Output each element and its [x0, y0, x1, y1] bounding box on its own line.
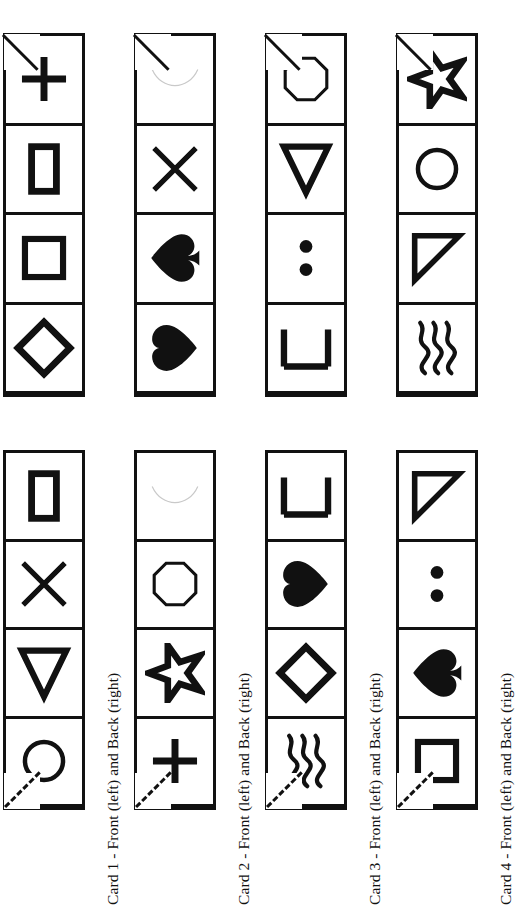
- card-cell: [6, 453, 82, 542]
- cross-x-icon: [15, 555, 73, 613]
- card-caption: Card 1 - Front (left) and Back (right): [104, 565, 122, 905]
- square-icon: [16, 230, 72, 286]
- card-strip-back: [265, 33, 347, 397]
- card-cell: [137, 305, 213, 395]
- octagon-icon: [149, 558, 201, 610]
- dashed-cut-corner: [397, 773, 433, 809]
- card-2: Card 2 - Front (left) and Back (right): [131, 0, 262, 810]
- card-strip-front: [134, 450, 216, 810]
- card-cell: [268, 305, 344, 395]
- rectangle-icon: [13, 138, 75, 200]
- card-cell: [268, 630, 344, 719]
- crescent-icon: [145, 466, 205, 526]
- card-caption: Card 3 - Front (left) and Back (right): [366, 565, 384, 905]
- triangle-left-icon: [13, 642, 75, 704]
- two-dots-icon: [408, 555, 466, 613]
- right-triangle-icon: [406, 465, 468, 527]
- card-cell: [268, 126, 344, 216]
- bracket-icon: [277, 467, 335, 525]
- card-strip-back: [134, 33, 216, 397]
- card-cell: [399, 215, 475, 305]
- card-cell: [399, 542, 475, 631]
- card-strip-front: [3, 450, 85, 810]
- card-cell: [6, 630, 82, 719]
- card-cell: [6, 542, 82, 631]
- card-cell: [137, 453, 213, 542]
- card-cell: [268, 542, 344, 631]
- diamond-icon: [13, 317, 75, 379]
- circle-icon: [409, 141, 465, 197]
- card-strip-front: [396, 450, 478, 810]
- spade-icon: [148, 231, 202, 285]
- card-4: Card 4 - Front (left) and Back (right): [393, 0, 524, 810]
- card-cell: [399, 630, 475, 719]
- card-cell: [268, 453, 344, 542]
- cross-x-icon: [146, 140, 204, 198]
- card-strip-back: [396, 33, 478, 397]
- waves-icon: [407, 318, 467, 378]
- card-cell: [137, 126, 213, 216]
- card-cell: [6, 126, 82, 216]
- two-dots-icon: [277, 229, 335, 287]
- spade-icon: [410, 646, 464, 700]
- card-caption: Card 2 - Front (left) and Back (right): [235, 565, 253, 905]
- card-strip-back: [3, 33, 85, 397]
- card-cell: [399, 305, 475, 395]
- heart-icon: [149, 322, 201, 374]
- card-cell: [399, 126, 475, 216]
- clipped-corner: [266, 34, 302, 70]
- card-cell: [399, 453, 475, 542]
- dashed-cut-corner: [135, 773, 171, 809]
- card-cell: [137, 630, 213, 719]
- heart-icon: [280, 558, 332, 610]
- card-cell: [137, 542, 213, 631]
- card-cell: [6, 305, 82, 395]
- card-cell: [137, 215, 213, 305]
- clipped-corner: [135, 34, 171, 70]
- clipped-corner: [4, 34, 40, 70]
- dashed-cut-corner: [4, 773, 40, 809]
- card-caption: Card 4 - Front (left) and Back (right): [497, 565, 515, 905]
- triangle-left-icon: [275, 138, 337, 200]
- dashed-cut-corner: [266, 773, 302, 809]
- bracket-icon: [277, 319, 335, 377]
- card-3: Card 3 - Front (left) and Back (right): [262, 0, 393, 810]
- star-icon: [145, 643, 205, 703]
- card-cell: [268, 215, 344, 305]
- diamond-icon: [275, 642, 337, 704]
- card-strip-front: [265, 450, 347, 810]
- rectangle-icon: [13, 465, 75, 527]
- card-1: Card 1 - Front (left) and Back (right): [0, 0, 131, 810]
- card-cell: [6, 215, 82, 305]
- right-triangle-icon: [406, 227, 468, 289]
- clipped-corner: [397, 34, 433, 70]
